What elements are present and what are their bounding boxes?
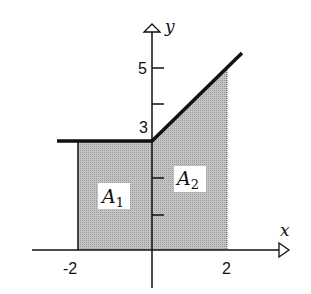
y-tick-label-5: 5 bbox=[138, 60, 147, 77]
x-tick-label-neg2: -2 bbox=[63, 260, 77, 277]
y-axis-label: y bbox=[164, 16, 175, 36]
region-a2 bbox=[152, 68, 227, 250]
x-axis-label: x bbox=[280, 220, 290, 240]
y-tick-label-3: 3 bbox=[139, 119, 148, 136]
x-axis-arrow-icon bbox=[279, 243, 289, 257]
y-axis-arrow-icon bbox=[144, 24, 160, 32]
x-tick-label-2: 2 bbox=[222, 260, 231, 277]
area-diagram: x y 5 3 -2 2 A1 A2 bbox=[0, 0, 311, 294]
